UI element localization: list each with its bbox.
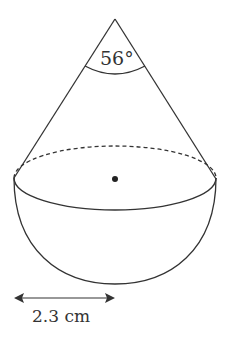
base-ellipse-front: [14, 178, 216, 210]
cone-right-edge: [115, 19, 216, 179]
center-point: [112, 176, 118, 182]
cone-left-edge: [14, 19, 115, 178]
hemisphere-outline: [14, 178, 216, 284]
base-ellipse-back: [14, 146, 216, 178]
solid-diagram: 56° 2.3 cm: [0, 0, 232, 338]
angle-label: 56°: [100, 47, 134, 69]
radius-label: 2.3 cm: [32, 306, 90, 326]
